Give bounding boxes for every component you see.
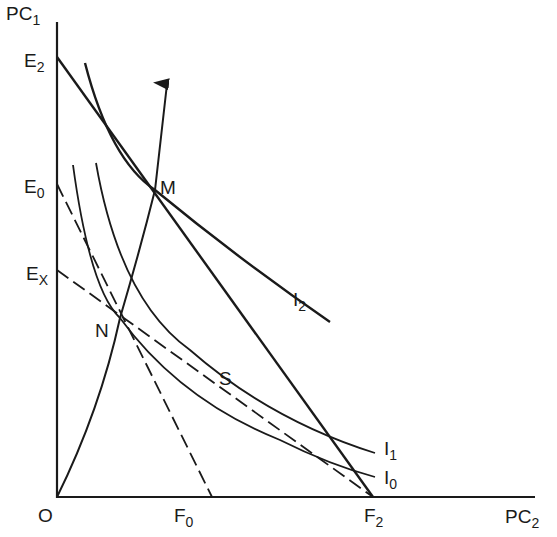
label-i0: I0: [384, 467, 397, 492]
svg-text:I1: I1: [384, 438, 397, 463]
label-f0: F0: [174, 505, 194, 530]
indifference-curve-i2: [85, 63, 330, 322]
origin-label: O: [38, 505, 53, 526]
svg-text:EX: EX: [26, 263, 49, 288]
label-s: S: [219, 368, 232, 389]
budget-line-e0-f0: [57, 184, 212, 497]
svg-text:I0: I0: [384, 467, 397, 492]
y-axis-label: PC1: [6, 3, 40, 28]
svg-text:F0: F0: [174, 505, 194, 530]
label-i2: I2: [293, 289, 306, 314]
label-f2: F2: [364, 505, 384, 530]
indifference-curve-i1: [96, 163, 375, 453]
svg-text:F2: F2: [364, 505, 384, 530]
svg-text:E0: E0: [24, 176, 45, 201]
svg-text:PC1: PC1: [6, 3, 40, 28]
label-i1: I1: [384, 438, 397, 463]
x-axis-label: PC2: [505, 506, 539, 531]
label-n: N: [95, 320, 109, 341]
economics-diagram: PC1 PC2 O E2 E0 EX F0 F2 M N S I2 I1 I0: [0, 0, 557, 537]
label-ex: EX: [26, 263, 49, 288]
budget-line-ex-f2: [57, 270, 373, 497]
label-e0: E0: [24, 176, 45, 201]
expansion-path-arrow: [57, 84, 167, 497]
svg-text:PC2: PC2: [505, 506, 539, 531]
label-m: M: [160, 177, 176, 198]
label-e2: E2: [24, 50, 45, 75]
svg-text:I2: I2: [293, 289, 306, 314]
svg-text:E2: E2: [24, 50, 45, 75]
